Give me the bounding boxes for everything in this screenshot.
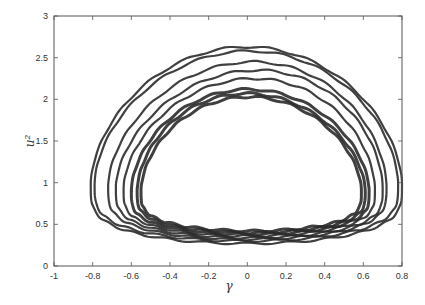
- orbit-curve: [124, 78, 375, 237]
- x-tick-label: -0.4: [162, 271, 178, 281]
- x-tick-label: 0.2: [280, 271, 293, 281]
- y-tick-label: 1.5: [35, 136, 48, 146]
- orbit-curve: [137, 93, 365, 234]
- x-tick-label: 0: [245, 271, 250, 281]
- x-tick-label: -0.2: [201, 271, 217, 281]
- x-tick-label: -0.6: [124, 271, 140, 281]
- y-tick-label: 2: [43, 94, 48, 104]
- x-tick-label: -0.8: [85, 271, 101, 281]
- y-tick-label: 3: [43, 11, 48, 21]
- y-tick-label: 1: [43, 178, 48, 188]
- x-tick-label: 0.6: [357, 271, 370, 281]
- y-tick-label: 0: [43, 261, 48, 271]
- phase-plot: -1-0.8-0.6-0.4-0.200.20.40.60.8 00.511.5…: [0, 0, 425, 305]
- x-tick-label: 0.8: [396, 271, 409, 281]
- x-tick-label: 0.4: [318, 271, 331, 281]
- y-tick-label: 0.5: [35, 219, 48, 229]
- x-tick-label: -1: [50, 271, 58, 281]
- orbit-curve: [116, 70, 383, 239]
- orbit-curves: [91, 47, 402, 244]
- y-axis-label: u²: [23, 135, 37, 148]
- y-tick-label: 2.5: [35, 53, 48, 63]
- x-axis-label: γ: [225, 279, 233, 293]
